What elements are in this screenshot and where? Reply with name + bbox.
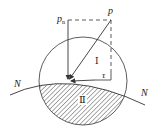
label-n-right: N xyxy=(141,88,148,98)
label-n-left: N xyxy=(14,79,21,89)
label-tau: τ xyxy=(102,71,105,80)
region-ii-hatched xyxy=(10,84,145,133)
label-region-ii: Ⅱ xyxy=(78,95,87,105)
tau-vector-arrow xyxy=(71,80,95,81)
diagram-canvas xyxy=(0,0,155,133)
label-pn: pn xyxy=(57,14,65,25)
label-p: p xyxy=(108,6,113,16)
stress-decomposition-diagram: p pn τ Ⅰ Ⅱ N N xyxy=(0,0,155,133)
label-pn-subscript: n xyxy=(62,19,65,25)
label-region-i: Ⅰ xyxy=(95,57,99,66)
